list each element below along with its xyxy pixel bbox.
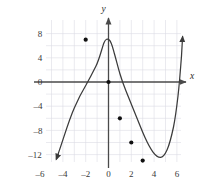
y-tick-label-neg12: –12 [27,150,42,160]
y-tick-label-neg8: –8 [33,126,44,136]
y-axis-label: y [100,4,106,14]
y-tick-label-8: 8 [38,29,43,39]
x-tick-label-neg2: –2 [80,169,90,179]
x-tick-label-6: 6 [175,169,180,179]
point-local-min [141,159,145,163]
point-2-neg10 [129,140,133,144]
x-tick-label-neg4: –4 [57,169,68,179]
x-axis-label: x [189,71,195,81]
point-1-neg6 [118,116,122,120]
x-tick-label-4: 4 [152,169,157,179]
y-tick-label-4: 4 [38,53,43,63]
graph-figure: 8 4 0 –4 –8 –12 –6 –4 –2 0 2 4 6 y x [0,0,203,184]
y-tick-label-0: 0 [38,77,43,87]
cubic-function-plot: 8 4 0 –4 –8 –12 –6 –4 –2 0 2 4 6 y x [0,0,203,184]
point-local-max [84,38,88,42]
x-tick-label-0: 0 [106,169,111,179]
point-origin [106,80,110,84]
x-tick-label-2: 2 [129,169,134,179]
y-tick-label-neg4: –4 [33,101,44,111]
x-tick-label-neg6: –6 [35,169,46,179]
